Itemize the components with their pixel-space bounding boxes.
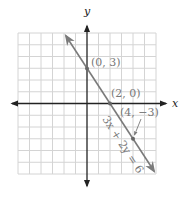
point-2-0 bbox=[108, 102, 112, 106]
point-label-2-0: (2, 0) bbox=[111, 87, 141, 100]
point-0-3 bbox=[85, 67, 89, 71]
point-label-0-3: (0, 3) bbox=[91, 56, 121, 69]
y-axis-label: y bbox=[83, 5, 91, 18]
coordinate-graph: x y (0, 3) (2, 0) (4, −3) 3x + 2y = 6 bbox=[0, 0, 188, 199]
x-axis-label: x bbox=[172, 97, 179, 110]
point-label-4-neg3: (4, −3) bbox=[120, 106, 159, 119]
point-4-neg3 bbox=[131, 137, 135, 141]
